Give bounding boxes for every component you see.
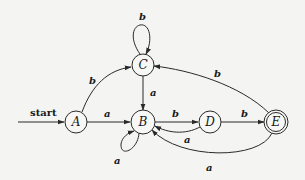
transition-label: b (139, 11, 146, 22)
transition-E-B: a (152, 130, 272, 173)
transition-label: a (184, 134, 190, 145)
state-C: C (132, 54, 154, 76)
transition-label: a (206, 162, 212, 173)
transition-D-E: b (221, 108, 264, 122)
state-label: C (138, 58, 147, 72)
transition-label: b (241, 108, 248, 119)
transition-B-D: b (155, 108, 198, 122)
state-label: D (204, 115, 215, 129)
start-label: start (30, 107, 57, 118)
transition-label: a (114, 155, 120, 166)
state-E-accepting: E (264, 110, 288, 134)
transition-label: b (214, 68, 221, 79)
transition-E-C: b (154, 66, 269, 113)
transition-B-B: a (114, 131, 139, 166)
transition-label: a (104, 108, 110, 119)
state-B: B (131, 110, 155, 134)
state-label: E (271, 115, 281, 129)
state-A: A (65, 111, 87, 133)
transition-A-C: b (82, 67, 131, 112)
transition-D-B: a (155, 126, 200, 145)
automaton-diagram: start a b a b b a a b a (0, 0, 305, 180)
transition-C-C: b (133, 11, 150, 54)
state-label: B (138, 115, 148, 129)
transition-label: b (89, 75, 96, 86)
transition-label: b (172, 108, 179, 119)
transition-C-B: a (143, 76, 156, 110)
start-arrow: start (18, 107, 64, 122)
state-D: D (199, 111, 221, 133)
transition-label: a (150, 87, 156, 98)
state-label: A (71, 115, 81, 129)
transition-A-B: a (87, 108, 130, 122)
